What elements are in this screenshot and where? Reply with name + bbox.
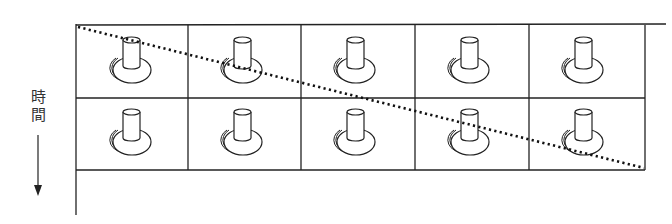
flask-bottle-icon bbox=[110, 37, 151, 83]
flask-bottle-icon bbox=[448, 37, 489, 83]
flask-bottle-icon bbox=[334, 109, 375, 155]
flask-bottle-icon bbox=[448, 109, 489, 155]
flask-bottle-icon bbox=[562, 109, 603, 155]
top-border bbox=[76, 24, 666, 25]
flask-bottle-icon bbox=[562, 37, 603, 83]
flask-bottle-icon bbox=[110, 109, 151, 155]
time-sequence-diagram bbox=[0, 0, 672, 224]
arrow-down-icon bbox=[34, 135, 42, 196]
flask-bottle-icon bbox=[221, 109, 262, 155]
flask-bottle-icon bbox=[221, 37, 262, 83]
time-axis-label: 時間 bbox=[28, 88, 48, 124]
flask-bottle-icon bbox=[334, 37, 375, 83]
